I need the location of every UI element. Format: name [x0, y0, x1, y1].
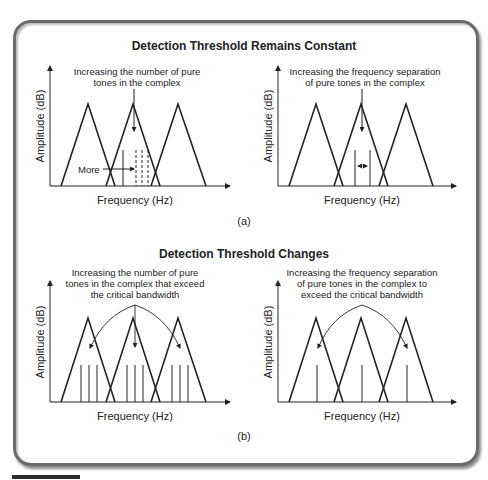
filter-triangle-3 — [151, 318, 206, 402]
y-axis-label: Amplitude (dB) — [262, 306, 274, 379]
filter-triangle-1 — [289, 318, 343, 402]
panel-a-label: (a) — [237, 215, 250, 227]
graph-a-left: Increasing the number of pure tones in t… — [34, 66, 230, 206]
panel-a-title: Detection Threshold Remains Constant — [132, 39, 357, 53]
y-axis-label: Amplitude (dB) — [34, 90, 46, 163]
graph-b-right: Increasing the frequency separation of p… — [262, 267, 456, 422]
filter-triangle-3 — [151, 104, 206, 186]
x-axis-label: Frequency (Hz) — [324, 410, 400, 422]
annotation-line-3: the critical bandwidth — [91, 289, 180, 300]
diagram-canvas: Detection Threshold Remains Constant Inc… — [0, 0, 488, 480]
more-label: More — [78, 164, 100, 175]
annotation-line-1: Increasing the frequency separation — [289, 66, 440, 77]
panel-b-title: Detection Threshold Changes — [159, 247, 329, 261]
x-axis-label: Frequency (Hz) — [97, 194, 173, 206]
filter-triangle-2 — [334, 318, 388, 402]
y-axis-label: Amplitude (dB) — [34, 306, 46, 379]
filter-triangle-2 — [334, 104, 388, 186]
annotation-line-2: tones in the complex that exceed — [66, 278, 205, 289]
annotation-line-1: Increasing the number of pure — [74, 66, 201, 77]
graph-a-right: Increasing the frequency separation of p… — [262, 66, 456, 206]
y-axis-label: Amplitude (dB) — [262, 90, 274, 163]
x-axis-label: Frequency (Hz) — [324, 194, 400, 206]
filter-triangle-3 — [379, 318, 433, 402]
curved-arrow-left — [318, 305, 362, 348]
annotation-line-3: exceed the critical bandwidth — [301, 289, 423, 300]
tone-lines — [81, 365, 188, 402]
annotation-line-2: tones in the complex — [93, 77, 180, 88]
filter-triangle-1 — [61, 318, 115, 402]
annotation-line-1: Increasing the frequency separation — [286, 267, 437, 278]
annotation-line-2: of pure tones in the complex — [305, 77, 425, 88]
annotation-line-2: of pure tones in the complex to — [297, 278, 427, 289]
curved-arrow-right — [135, 305, 180, 348]
tone-lines — [317, 365, 407, 402]
curved-arrow-left — [90, 305, 135, 348]
filter-triangle-3 — [379, 104, 433, 186]
panel-b-label: (b) — [237, 430, 250, 442]
filter-triangle-2 — [106, 318, 160, 402]
annotation-line-1: Increasing the number of pure — [72, 267, 199, 278]
graph-b-left: Increasing the number of pure tones in t… — [34, 267, 230, 422]
filter-triangle-1 — [289, 104, 343, 186]
filter-triangle-2 — [106, 104, 160, 186]
x-axis-label: Frequency (Hz) — [97, 410, 173, 422]
